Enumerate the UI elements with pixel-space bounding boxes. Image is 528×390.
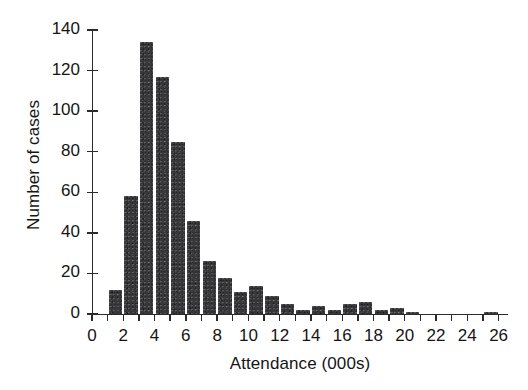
- histogram-bar: [156, 77, 169, 314]
- histogram-bar: [124, 196, 137, 314]
- x-tick-mark: [263, 314, 264, 321]
- x-tick-mark: [342, 314, 343, 321]
- x-tick-mark: [279, 314, 280, 321]
- x-tick-mark: [154, 314, 155, 321]
- histogram-bar: [375, 310, 388, 314]
- histogram-bar: [249, 286, 262, 314]
- y-tick-label: 120: [34, 60, 80, 80]
- histogram-bar: [218, 278, 231, 315]
- histogram-bar: [109, 290, 122, 314]
- histogram-bar: [359, 302, 372, 314]
- bars-layer: [92, 30, 508, 314]
- histogram-bar: [234, 292, 247, 314]
- y-tick-label: 100: [34, 100, 80, 120]
- histogram-bar: [296, 310, 309, 314]
- x-tick-mark: [420, 314, 421, 321]
- y-tick-label: 20: [34, 262, 80, 282]
- histogram-bar: [484, 312, 497, 314]
- histogram-bar: [390, 308, 403, 314]
- histogram-bar: [312, 306, 325, 314]
- histogram-bar: [281, 304, 294, 314]
- x-tick-mark: [185, 314, 186, 321]
- histogram-bar: [171, 142, 184, 314]
- x-tick-mark: [138, 314, 139, 321]
- histogram-bar: [328, 310, 341, 314]
- histogram-figure: Number of cases Attendance (000s) 020406…: [0, 0, 528, 390]
- x-tick-mark: [326, 314, 327, 321]
- x-tick-mark: [498, 314, 499, 321]
- y-tick-label: 40: [34, 222, 80, 242]
- x-tick-mark: [201, 314, 202, 321]
- x-tick-mark: [451, 314, 452, 321]
- x-tick-mark: [216, 314, 217, 321]
- x-tick-mark: [357, 314, 358, 321]
- x-tick-mark: [123, 314, 124, 321]
- histogram-bar: [265, 296, 278, 314]
- histogram-bar: [203, 261, 216, 314]
- y-tick-label: 140: [34, 19, 80, 39]
- x-tick-mark: [232, 314, 233, 321]
- x-tick-mark: [91, 314, 92, 321]
- histogram-bar: [187, 221, 200, 314]
- x-tick-mark: [482, 314, 483, 321]
- x-tick-mark: [467, 314, 468, 321]
- histogram-bar: [406, 312, 419, 314]
- y-tick-label: 60: [34, 181, 80, 201]
- x-tick-mark: [295, 314, 296, 321]
- x-tick-mark: [107, 314, 108, 321]
- x-tick-mark: [388, 314, 389, 321]
- x-axis-title: Attendance (000s): [92, 354, 508, 374]
- x-tick-mark: [310, 314, 311, 321]
- y-tick-label: 80: [34, 141, 80, 161]
- x-tick-label: 26: [479, 326, 519, 346]
- x-tick-mark: [435, 314, 436, 321]
- y-tick-label: 0: [34, 303, 80, 323]
- x-tick-mark: [373, 314, 374, 321]
- x-tick-mark: [404, 314, 405, 321]
- histogram-bar: [343, 304, 356, 314]
- plot-area: 020406080100120140 024681012141618202224…: [92, 30, 508, 314]
- x-tick-mark: [169, 314, 170, 321]
- x-tick-mark: [248, 314, 249, 321]
- histogram-bar: [140, 42, 153, 314]
